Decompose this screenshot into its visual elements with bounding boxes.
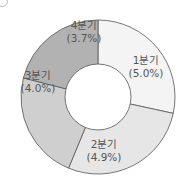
donut-hole: [65, 64, 131, 130]
segment-label-q3-value: (4.0%): [21, 82, 56, 94]
segment-label-q4-value: (3.7%): [67, 32, 102, 44]
donut-chart: 1분기 (5.0%) 2분기 (4.9%) 3분기 (4.0%) 4분기 (3.…: [0, 0, 187, 181]
segment-label-q3-name: 3분기: [25, 69, 52, 81]
segment-label-q2-name: 2분기: [91, 138, 118, 150]
segment-label-q2-value: (4.9%): [87, 151, 122, 163]
segment-label-q1-value: (5.0%): [129, 67, 164, 79]
segment-label-q1-name: 1분기: [133, 54, 160, 66]
segment-label-q4-name: 4분기: [71, 19, 98, 31]
